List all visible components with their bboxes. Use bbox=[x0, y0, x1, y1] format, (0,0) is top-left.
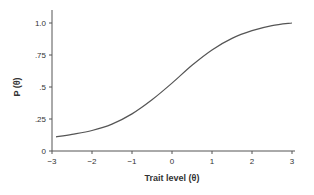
x-tick-label: −3 bbox=[47, 157, 57, 166]
y-tick-label: 0 bbox=[42, 147, 47, 156]
x-tick-label: 2 bbox=[250, 157, 255, 166]
axes: 0.25.5.751.0−3−2−10123 bbox=[35, 10, 295, 166]
icc-curve bbox=[56, 23, 292, 137]
x-tick-label: 3 bbox=[290, 157, 295, 166]
x-tick-label: −1 bbox=[127, 157, 137, 166]
x-axis-label: Trait level (θ) bbox=[145, 173, 200, 183]
y-tick-label: .25 bbox=[35, 115, 47, 124]
x-tick-label: 1 bbox=[210, 157, 215, 166]
y-axis-label: P (θ) bbox=[12, 77, 22, 96]
icc-chart: 0.25.5.751.0−3−2−10123 P (θ) Trait level… bbox=[0, 0, 314, 195]
y-tick-label: 1.0 bbox=[35, 19, 47, 28]
x-tick-label: −2 bbox=[87, 157, 97, 166]
y-tick-label: .5 bbox=[39, 83, 46, 92]
x-tick-label: 0 bbox=[170, 157, 175, 166]
y-tick-label: .75 bbox=[35, 51, 47, 60]
